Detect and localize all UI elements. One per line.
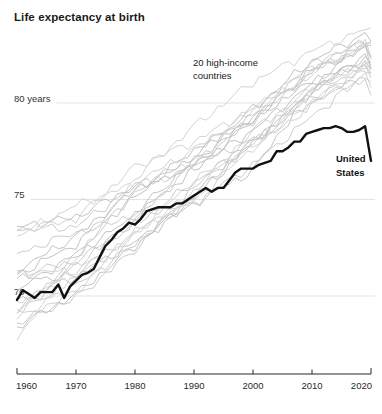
us-line [17,126,371,300]
countries-annotation: 20 high-income countries [193,57,261,81]
x-axis-tick-label: 2020 [351,380,372,391]
life-expectancy-chart: 80 years7570 196019701980199020002010202… [0,0,382,414]
x-axis: 1960197019801990200020102020 [16,368,372,391]
chart-canvas: Life expectancy at birth 80 years7570 19… [0,0,382,414]
country-line [17,61,371,275]
y-gridline-label: 75 [14,189,25,200]
country-line [17,56,371,300]
us-annotation-line2: States [336,167,365,178]
x-axis-tick-label: 1970 [65,380,86,391]
x-axis-tick-label: 2010 [301,380,322,391]
country-line [17,46,371,290]
us-annotation-line1: United [336,153,366,164]
country-line [17,42,371,313]
country-line [17,40,371,313]
country-line [17,71,371,303]
countries-annotation-line1: 20 high-income [193,57,258,68]
x-axis-tick-label: 1980 [124,380,145,391]
country-line [17,79,371,275]
us-annotation: United States [336,153,368,178]
x-axis-tick-label: 2000 [242,380,263,391]
x-axis-tick-label: 1990 [183,380,204,391]
united-states-line [17,126,371,300]
x-axis-tick-label: 1960 [16,380,37,391]
countries-annotation-line2: countries [193,70,232,81]
y-gridline-label: 80 years [14,93,51,104]
